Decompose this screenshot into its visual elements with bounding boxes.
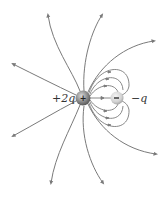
positive-charge-label: +2q	[52, 93, 75, 104]
field-line	[83, 106, 103, 183]
negative-charge-label: −q	[131, 93, 147, 104]
field-line	[13, 101, 76, 136]
negative-charge	[111, 92, 124, 105]
field-line	[51, 105, 80, 183]
plus-sign-icon: +	[80, 94, 87, 103]
field-line	[13, 64, 76, 95]
positive-charge: +	[76, 91, 91, 106]
field-line	[48, 15, 80, 91]
field-line	[84, 15, 102, 91]
field-line	[88, 41, 154, 92]
minus-sign-icon	[114, 97, 119, 98]
field-line	[89, 101, 129, 127]
field-line	[89, 69, 129, 95]
figure-caption	[0, 193, 80, 197]
